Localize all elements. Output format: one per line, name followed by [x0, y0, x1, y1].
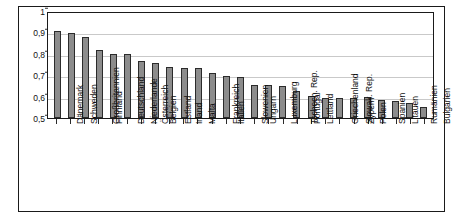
x-axis-category-label: Portugal	[313, 92, 322, 124]
y-axis-tick-label: 0,5	[33, 115, 45, 124]
x-axis-category-label: Litauen	[411, 96, 420, 124]
x-axis-label-slot: Polen	[361, 124, 375, 208]
x-axis-label-slot: Deutschland	[106, 124, 120, 208]
x-axis-category-label: Luxemburg	[290, 81, 299, 124]
x-axis-label-slot: Litauen	[390, 124, 404, 208]
x-axis-category-label: Zypern	[367, 98, 376, 124]
y-axis-tick-label: 0,9	[33, 29, 45, 38]
bar	[420, 107, 427, 118]
x-axis-category-label: Malta	[208, 103, 217, 124]
y-axis-tick-label: 0,6	[33, 93, 45, 102]
x-axis-label-slot: Belgien	[148, 124, 162, 208]
bar	[54, 31, 61, 118]
x-axis-label-slot: Portugal	[290, 124, 304, 208]
x-axis-category-label: Ungarn	[269, 96, 278, 124]
x-axis-label-slot: Griechenland	[319, 124, 333, 208]
bar	[279, 86, 286, 118]
y-axis: 10,90,80,70,60,5	[20, 6, 47, 126]
bar	[336, 98, 343, 118]
x-axis-category-label: Polen	[379, 102, 388, 124]
x-axis-label-slot: Estland	[163, 124, 177, 208]
x-axis-label-slot: Rumänien	[404, 124, 418, 208]
x-axis-label-slot: Slowenien	[233, 124, 247, 208]
x-axis-category-label: Lettland	[327, 94, 336, 124]
x-axis-category-label: Rumänien	[430, 85, 439, 124]
x-axis-category-labels: DänemarkSchwedenGroßbritannienFinnlandDe…	[47, 124, 434, 208]
x-axis-label-slot: Tschech. Rep.	[276, 124, 290, 208]
x-axis-label-slot: Frankreich	[205, 124, 219, 208]
x-axis-label-slot: Finnland	[92, 124, 106, 208]
x-axis-category-label: Dänemark	[76, 85, 85, 124]
x-axis-label-slot: Malta	[191, 124, 205, 208]
bar	[68, 33, 75, 118]
x-axis-category-label: Niederlande	[150, 78, 159, 124]
x-axis-label-slot: Niederlande	[120, 124, 134, 208]
y-axis-tick-label: 0,7	[33, 72, 45, 81]
x-axis-category-label: Finnland	[115, 91, 124, 124]
bar	[124, 54, 131, 118]
bar-chart-figure: 10,90,80,70,60,5 DänemarkSchwedenGroßbri…	[0, 0, 453, 220]
y-axis-tick-mark	[45, 8, 48, 9]
x-axis-category-label: Bulgarien	[443, 88, 452, 124]
x-axis-category-label: Griechenland	[351, 73, 360, 124]
x-axis-category-label: Deutschland	[136, 77, 145, 124]
x-axis-label-slot: Österreich	[134, 124, 148, 208]
x-axis-label-slot: Zypern	[347, 124, 361, 208]
x-axis-category-label: Italien	[238, 101, 247, 124]
x-axis-label-slot: Irland	[177, 124, 191, 208]
x-axis-label-slot: Spanien	[375, 124, 389, 208]
y-axis-tick-label: 1	[40, 8, 45, 17]
x-axis-label-slot: Slowak. Rep.	[333, 124, 347, 208]
x-axis-label-slot: Schweden	[63, 124, 77, 208]
bar	[223, 76, 230, 118]
x-axis-category-label: Estland	[184, 96, 193, 124]
x-axis-label-slot: Dänemark	[49, 124, 63, 208]
y-axis-tick-label: 0,8	[33, 51, 45, 60]
x-axis-category-label: Schweden	[90, 84, 99, 124]
x-axis-label-slot: Großbritannien	[77, 124, 91, 208]
x-axis-category-label: Irland	[194, 103, 203, 124]
bar-slot	[50, 13, 64, 118]
x-axis-label-slot: Luxemburg	[262, 124, 276, 208]
x-axis-label-slot: Italien	[219, 124, 233, 208]
x-axis-category-label: Spanien	[398, 93, 407, 124]
x-axis-category-label: Belgien	[170, 96, 179, 124]
x-axis-label-slot: Ungarn	[248, 124, 262, 208]
x-axis-label-slot: Lettland	[304, 124, 318, 208]
x-axis-label-slot: Bulgarien	[418, 124, 432, 208]
bar	[251, 85, 258, 118]
